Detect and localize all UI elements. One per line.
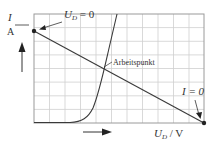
ud0-value: = 0 — [77, 8, 94, 20]
point-i0 — [202, 121, 206, 125]
y-axis-label-numerator: I — [8, 12, 12, 23]
point-ud0 — [32, 29, 36, 33]
y-arrowhead-icon — [19, 42, 26, 52]
x-axis-label: UD / V — [154, 128, 183, 141]
annotation-ud0: UD = 0 — [64, 9, 94, 22]
x-axis-symbol: U — [154, 127, 162, 139]
y-axis-label-denominator: A — [7, 27, 14, 37]
annotation-arbeitspunkt: Arbeitspunkt — [113, 59, 155, 67]
x-arrowhead-icon — [102, 129, 112, 136]
ud0-pointer — [43, 22, 62, 28]
grid — [34, 14, 204, 123]
diagram-canvas — [0, 0, 219, 144]
ud0-symbol: U — [64, 8, 72, 20]
annotation-i0: I = 0 — [182, 86, 204, 97]
i0-arrowhead-icon — [196, 112, 202, 119]
x-axis-unit: / V — [167, 127, 183, 139]
